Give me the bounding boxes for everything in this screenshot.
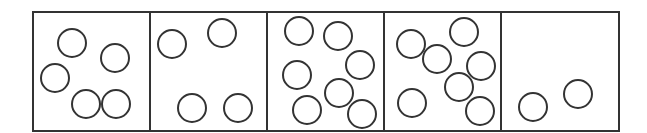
box-1-border [33,12,150,131]
diagram-canvas [0,0,647,133]
circle-count-diagram [0,0,647,133]
box-5-border [501,12,619,131]
box-4 [384,12,501,131]
box-3 [267,12,384,131]
box-2 [150,12,267,131]
box-5 [501,12,619,131]
box-1 [33,12,150,131]
